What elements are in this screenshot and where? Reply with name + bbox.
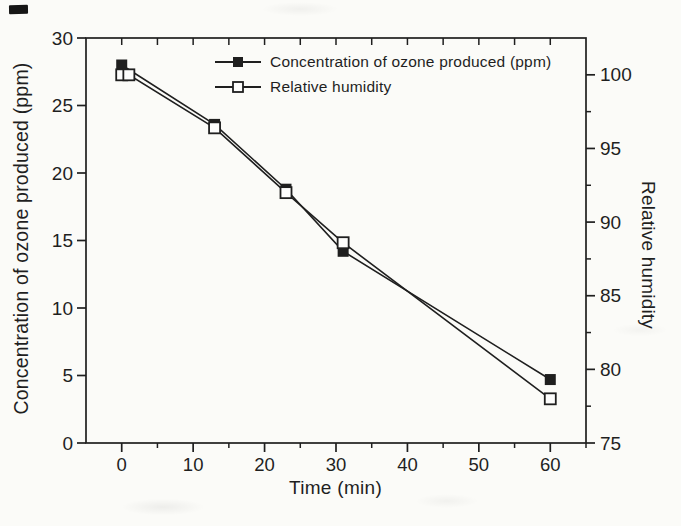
filled-square-marker [545,374,556,385]
right-y-axis-title: Relative humidity [626,45,670,465]
figure-container: 01020304050600510152025307580859095100 C… [0,0,681,526]
series-humidity [116,69,556,404]
left-y-axis-title: Concentration of ozone produced (ppm) [0,28,42,448]
left-y-axis-ticks [77,38,86,443]
x-tick-label: 30 [326,454,347,475]
right-y-tick-label: 85 [600,285,621,306]
legend-label-ozone: Concentration of ozone produced (ppm) [270,53,551,71]
open-square-marker [123,69,134,80]
chart-legend: Concentration of ozone produced (ppm) Re… [215,49,551,99]
x-tick-label: 40 [397,454,418,475]
legend-entry-humidity: Relative humidity [215,74,551,99]
open-square-marker [209,122,220,133]
left-y-tick-label: 5 [62,365,73,386]
left-y-tick-label: 20 [52,163,73,184]
x-tick-label: 60 [540,454,561,475]
right-y-tick-label: 90 [600,212,621,233]
x-tick-label: 10 [183,454,204,475]
x-tick-label: 50 [469,454,490,475]
right-y-tick-label: 80 [600,359,621,380]
series-line-humidity [122,75,551,399]
open-square-marker [338,237,349,248]
x-axis-title-text: Time (min) [289,477,382,498]
open-square-marker [281,187,292,198]
legend-label-humidity: Relative humidity [270,78,391,96]
top-axis-ticks [122,38,551,45]
right-y-tick-label: 95 [600,138,621,159]
x-tick-label: 20 [254,454,275,475]
filled-square-marker-icon [215,55,261,69]
left-y-axis-tick-labels: 051015202530 [52,28,73,454]
open-square-marker-icon [215,80,261,94]
x-axis-title: Time (min) [85,477,586,499]
left-y-tick-label: 10 [52,298,73,319]
left-y-tick-label: 15 [52,230,73,251]
open-square-marker [545,393,556,404]
x-axis-tick-labels: 0102030405060 [117,454,561,475]
legend-entry-ozone: Concentration of ozone produced (ppm) [215,49,551,74]
right-y-axis-title-text: Relative humidity [637,181,659,329]
left-y-axis-title-text: Concentration of ozone produced (ppm) [10,62,33,414]
x-axis-ticks [122,443,586,452]
left-y-tick-label: 25 [52,95,73,116]
x-tick-label: 0 [117,454,127,475]
series-line-ozone [122,65,551,380]
left-y-tick-label: 0 [62,433,73,454]
right-y-axis-ticks [586,75,595,443]
right-y-tick-label: 75 [600,433,621,454]
left-y-tick-label: 30 [52,28,73,49]
